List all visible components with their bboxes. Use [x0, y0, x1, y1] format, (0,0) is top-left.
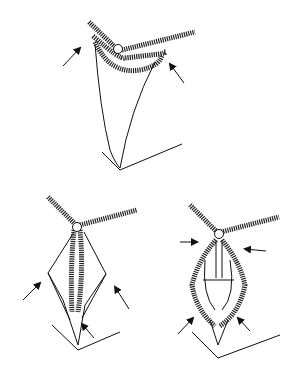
arrow-icon: [23, 283, 40, 300]
arrow-icon: [170, 64, 184, 83]
arrow-icon: [82, 324, 94, 338]
ring-icon: [215, 230, 224, 239]
ring-icon: [114, 45, 123, 54]
panel-top: [63, 22, 195, 170]
panel-bottom-left: [23, 197, 137, 350]
panel-bottom-right: [178, 205, 280, 358]
arrow-icon: [63, 48, 80, 66]
arrow-icon: [238, 318, 250, 331]
arrow-icon: [115, 287, 129, 309]
ring-icon: [73, 223, 82, 232]
illustration: [0, 0, 301, 375]
arrow-icon: [245, 249, 266, 251]
arrow-icon: [178, 318, 193, 334]
